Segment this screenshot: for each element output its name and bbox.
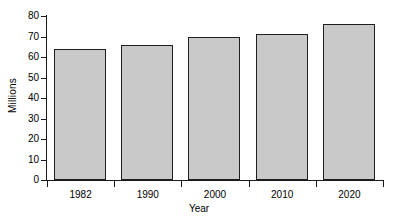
bar — [54, 49, 106, 180]
x-tick-mark — [316, 181, 317, 187]
x-axis-line — [46, 180, 384, 181]
x-axis-title-label: Year — [189, 203, 209, 214]
bar — [121, 45, 173, 180]
y-tick-label-text: 80 — [1, 11, 39, 21]
y-tick-label-text: 40 — [1, 93, 39, 103]
x-tick-mark — [114, 181, 115, 187]
plot-area — [47, 16, 383, 180]
x-tick-mark — [383, 181, 384, 187]
y-tick-label: 0 — [0, 175, 39, 185]
y-tick-label-text: 20 — [1, 134, 39, 144]
x-axis-title: Year — [0, 203, 398, 214]
bar — [256, 34, 308, 180]
x-tick-label: 2020 — [316, 189, 383, 200]
y-tick-label: 20 — [0, 134, 39, 144]
x-tick-label: 2010 — [249, 189, 316, 200]
y-tick-label: 80 — [0, 11, 39, 21]
y-tick-label: 30 — [0, 114, 39, 124]
y-tick-label-text: 10 — [1, 155, 39, 165]
bar-chart-figure: Millions 01020304050607080 1982199020002… — [0, 0, 398, 221]
y-tick-label: 60 — [0, 52, 39, 62]
x-tick-mark — [249, 181, 250, 187]
y-tick-label: 50 — [0, 73, 39, 83]
x-tick-mark — [47, 181, 48, 187]
y-tick-label-text: 30 — [1, 114, 39, 124]
y-tick-label: 10 — [0, 155, 39, 165]
y-tick-label: 70 — [0, 32, 39, 42]
y-tick-label-text: 60 — [1, 52, 39, 62]
y-tick-label-text: 70 — [1, 32, 39, 42]
bar — [188, 37, 240, 181]
y-tick-label-text: 0 — [1, 175, 39, 185]
y-tick-label: 40 — [0, 93, 39, 103]
x-tick-label: 1990 — [114, 189, 181, 200]
y-tick-label-text: 50 — [1, 73, 39, 83]
bar — [323, 24, 375, 180]
x-tick-label: 1982 — [47, 189, 114, 200]
x-tick-label: 2000 — [181, 189, 248, 200]
x-tick-mark — [181, 181, 182, 187]
